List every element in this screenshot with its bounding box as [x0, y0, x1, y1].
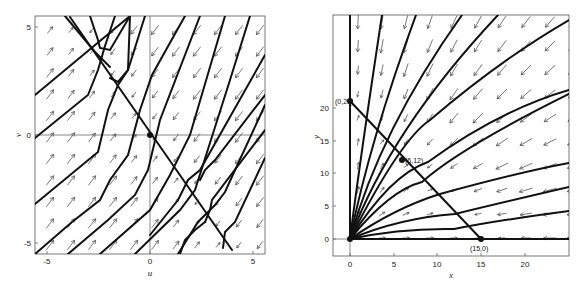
right-x-axis-label: x — [448, 270, 453, 280]
left-y-ticks: 5 0 -5 — [24, 23, 38, 248]
right-equilibrium-origin — [347, 236, 353, 242]
right-equilibrium-15-0 — [478, 236, 484, 242]
left-phase-portrait: -5 0 5 5 0 -5 u v — [13, 16, 265, 278]
right-ytick-20: 20 — [320, 104, 329, 113]
right-ytick-10: 10 — [320, 169, 329, 178]
right-xtick-15: 15 — [477, 260, 486, 269]
left-xtick-5: 5 — [251, 257, 256, 266]
left-equilibrium-origin — [147, 132, 153, 138]
right-trajectories — [350, 15, 569, 239]
left-x-axis-label: u — [148, 268, 153, 278]
point-label-0-21: (0,21) — [335, 98, 353, 106]
left-ytick-5: 5 — [27, 23, 32, 32]
left-y-axis-label: v — [13, 133, 23, 137]
left-x-ticks: -5 0 5 — [43, 251, 255, 266]
right-x-ticks: 0 5 10 15 20 — [348, 253, 530, 269]
right-xtick-20: 20 — [521, 260, 530, 269]
left-ytick-0: 0 — [27, 131, 32, 140]
right-xtick-10: 10 — [433, 260, 442, 269]
left-ytick-neg5: -5 — [24, 239, 32, 248]
left-xtick-0: 0 — [148, 257, 153, 266]
figure: -5 0 5 5 0 -5 u v — [0, 0, 582, 286]
left-xtick-neg5: -5 — [43, 257, 51, 266]
point-label-6-12: (6,12) — [405, 157, 423, 165]
point-label-15-0: (15,0) — [470, 245, 488, 253]
right-ytick-5: 5 — [325, 202, 330, 211]
right-ytick-15: 15 — [320, 137, 329, 146]
right-xtick-5: 5 — [392, 260, 397, 269]
right-ytick-0: 0 — [325, 235, 330, 244]
right-phase-portrait: (0,21) (6,12) (15,0) 0 5 10 15 20 0 5 10… — [311, 15, 581, 280]
right-y-ticks: 0 5 10 15 20 — [320, 104, 336, 244]
right-xtick-0: 0 — [348, 260, 353, 269]
right-y-axis-label: y — [311, 135, 321, 140]
